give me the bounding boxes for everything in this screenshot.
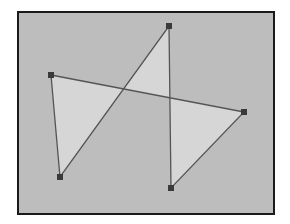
vertex-handle-4[interactable] <box>57 174 63 180</box>
vertex-handle-2[interactable] <box>168 185 174 191</box>
vertex-handle-1[interactable] <box>241 109 247 115</box>
vertex-handle-0[interactable] <box>48 72 54 78</box>
vertex-handle-3[interactable] <box>166 23 172 29</box>
polygon-diagram <box>0 0 290 224</box>
